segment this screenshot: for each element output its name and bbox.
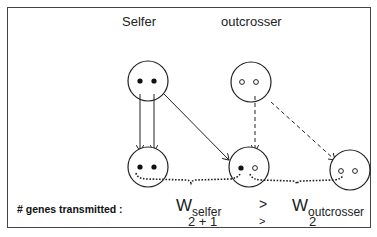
filled-allele-icon <box>238 165 243 170</box>
outcrosser-subscript: outcrosser <box>308 205 364 219</box>
open-allele-icon <box>254 80 259 85</box>
filled-allele-icon <box>151 78 156 83</box>
selfer-parent-node <box>128 61 168 101</box>
genes-transmitted-label: # genes transmitted : <box>17 203 123 215</box>
outcrosser-arrows <box>255 96 335 160</box>
w-symbol: W <box>292 196 308 215</box>
w-outcrosser: Woutcrosser <box>292 196 364 219</box>
selfed-offspring-node <box>128 147 168 187</box>
filled-allele-icon <box>151 164 156 169</box>
filled-allele-icon <box>137 78 142 83</box>
value-comparator: > <box>259 215 265 227</box>
open-allele-icon <box>339 169 344 174</box>
w-symbol: W <box>176 196 192 215</box>
selfer-value: 2 + 1 <box>188 214 217 229</box>
outcrossed-offspring-node <box>330 150 370 190</box>
hybrid-offspring-node <box>229 147 269 187</box>
open-allele-icon <box>253 166 258 171</box>
filled-allele-icon <box>137 164 142 169</box>
outcrosser-value: 2 <box>309 214 316 229</box>
outcrosser-label: outcrosser <box>221 14 282 29</box>
fitness-comparator: > <box>259 196 267 212</box>
outcrosser-parent-node <box>231 62 271 102</box>
selfer-label: Selfer <box>122 14 156 29</box>
open-allele-icon <box>353 169 358 174</box>
open-allele-icon <box>240 80 245 85</box>
